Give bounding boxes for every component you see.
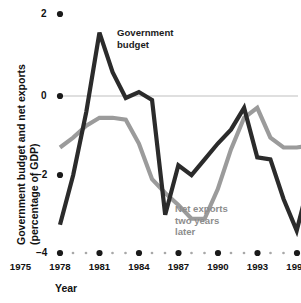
x-tick-label-1996: 1996	[286, 261, 301, 272]
x-tick-label-1993: 1993	[247, 261, 268, 272]
y-tick-label-minus-4: −4	[36, 247, 47, 258]
x-tick-label-1990: 1990	[207, 261, 228, 272]
series-line-government-budget	[60, 33, 301, 231]
y-tick-label-0: 0	[41, 90, 47, 101]
y-axis-tick-markers	[57, 11, 63, 178]
x-tick-label-1987: 1987	[168, 261, 189, 272]
y-axis-title-line-2: (percentage of GDP)	[28, 143, 40, 245]
x-axis-dotted-baseline	[57, 250, 300, 256]
x-tick-label-1978: 1978	[49, 261, 70, 272]
x-tick-label-1981: 1981	[89, 261, 110, 272]
y-tick-label-2: 2	[41, 8, 47, 19]
x-tick-label-1975: 1975	[10, 261, 31, 272]
y-axis-title-line-1: Government budget and net exports	[15, 64, 27, 245]
x-axis-title: Year	[55, 282, 77, 294]
annotation-government-budget: Government budget	[117, 27, 174, 50]
annotation-net-exports: Net exports two years later	[175, 203, 228, 238]
chart-figure: 2 0 −2 −4 Government budget and net expo…	[0, 0, 301, 303]
y-axis-title: Government budget and net exports (perce…	[0, 0, 32, 260]
x-tick-label-1984: 1984	[128, 261, 149, 272]
